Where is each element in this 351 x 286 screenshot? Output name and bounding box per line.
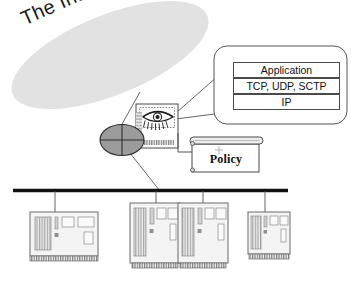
- host-4: [248, 212, 290, 259]
- network-diagram: The Internet Application TCP, UDP, SCTP …: [0, 0, 351, 286]
- policy-label: Policy: [196, 152, 256, 167]
- stack-layer-network: IP: [233, 94, 340, 110]
- host-1: [30, 212, 98, 261]
- host-3: [178, 203, 228, 268]
- stack-layer-transport: TCP, UDP, SCTP: [233, 78, 340, 94]
- stack-layer-application: Application: [233, 62, 340, 78]
- host-2: [130, 203, 180, 268]
- diagram-canvas: [0, 0, 351, 286]
- firewall-node: [100, 125, 144, 156]
